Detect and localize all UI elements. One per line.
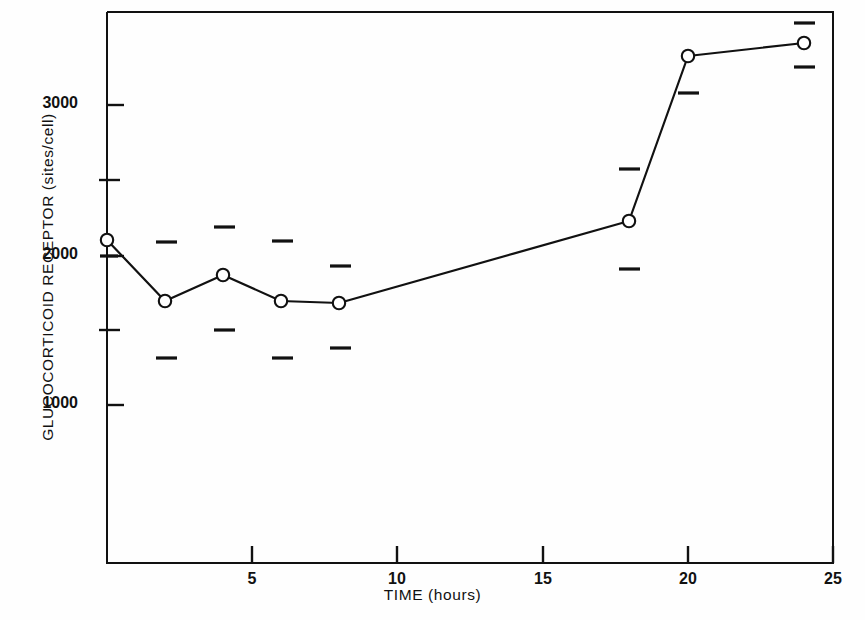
error-bar-caps [100, 23, 815, 358]
chart-figure: 3000 2000 1000 5 10 15 20 25 GLUCOCORTIC… [0, 0, 865, 620]
y-axis-title: GLUCOCORTICOID RECEPTOR (sites/cell) [39, 107, 57, 447]
data-point-markers [101, 37, 810, 309]
x-axis-title: TIME (hours) [0, 586, 865, 604]
data-series-line [107, 43, 804, 303]
line-chart-plot [0, 0, 865, 620]
plot-frame [107, 12, 833, 563]
x-axis-ticks [252, 546, 833, 563]
